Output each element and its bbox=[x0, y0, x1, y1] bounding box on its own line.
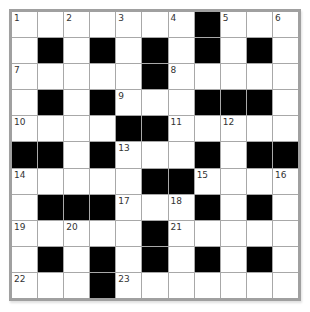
crossword-cell[interactable] bbox=[169, 90, 194, 115]
crossword-cell[interactable] bbox=[64, 90, 89, 115]
crossword-cell[interactable] bbox=[273, 221, 298, 246]
crossword-cell[interactable] bbox=[64, 116, 89, 141]
crossword-cell[interactable] bbox=[64, 247, 89, 272]
crossword-cell[interactable] bbox=[38, 64, 63, 89]
black-square bbox=[142, 38, 167, 63]
crossword-cell[interactable]: 21 bbox=[169, 221, 194, 246]
crossword-cell[interactable] bbox=[221, 64, 246, 89]
crossword-cell[interactable] bbox=[221, 247, 246, 272]
black-square bbox=[247, 38, 272, 63]
clue-number: 22 bbox=[14, 274, 25, 284]
clue-number: 10 bbox=[14, 117, 25, 127]
crossword-cell[interactable]: 11 bbox=[169, 116, 194, 141]
black-square bbox=[38, 247, 63, 272]
crossword-cell[interactable] bbox=[12, 38, 37, 63]
crossword-cell[interactable] bbox=[142, 273, 167, 298]
crossword-cell[interactable] bbox=[38, 169, 63, 194]
crossword-cell[interactable] bbox=[64, 64, 89, 89]
crossword-cell[interactable]: 12 bbox=[221, 116, 246, 141]
crossword-cell[interactable]: 22 bbox=[12, 273, 37, 298]
crossword-cell[interactable]: 10 bbox=[12, 116, 37, 141]
crossword-cell[interactable] bbox=[195, 116, 220, 141]
crossword-cell[interactable] bbox=[142, 90, 167, 115]
crossword-cell[interactable] bbox=[38, 221, 63, 246]
crossword-cell[interactable] bbox=[169, 142, 194, 167]
crossword-cell[interactable] bbox=[273, 247, 298, 272]
crossword-cell[interactable]: 14 bbox=[12, 169, 37, 194]
crossword-cell[interactable]: 13 bbox=[116, 142, 141, 167]
crossword-cell[interactable] bbox=[90, 12, 115, 37]
crossword-cell[interactable] bbox=[221, 273, 246, 298]
black-square bbox=[273, 142, 298, 167]
crossword-cell[interactable] bbox=[90, 116, 115, 141]
crossword-cell[interactable]: 15 bbox=[195, 169, 220, 194]
crossword-cell[interactable] bbox=[90, 221, 115, 246]
crossword-cell[interactable] bbox=[273, 116, 298, 141]
crossword-cell[interactable] bbox=[38, 273, 63, 298]
crossword-cell[interactable] bbox=[169, 247, 194, 272]
crossword-cell[interactable]: 1 bbox=[12, 12, 37, 37]
crossword-cell[interactable] bbox=[247, 64, 272, 89]
black-square bbox=[142, 64, 167, 89]
crossword-cell[interactable]: 6 bbox=[273, 12, 298, 37]
crossword-cell[interactable]: 5 bbox=[221, 12, 246, 37]
crossword-cell[interactable]: 4 bbox=[169, 12, 194, 37]
black-square bbox=[38, 142, 63, 167]
crossword-cell[interactable] bbox=[221, 221, 246, 246]
crossword-cell[interactable] bbox=[221, 195, 246, 220]
crossword-cell[interactable] bbox=[273, 273, 298, 298]
crossword-cell[interactable] bbox=[90, 64, 115, 89]
crossword-cell[interactable] bbox=[247, 221, 272, 246]
crossword-cell[interactable] bbox=[64, 142, 89, 167]
crossword-cell[interactable]: 19 bbox=[12, 221, 37, 246]
clue-number: 14 bbox=[14, 170, 25, 180]
crossword-cell[interactable] bbox=[195, 64, 220, 89]
crossword-cell[interactable] bbox=[12, 247, 37, 272]
crossword-cell[interactable] bbox=[247, 116, 272, 141]
crossword-cell[interactable] bbox=[12, 90, 37, 115]
crossword-cell[interactable] bbox=[64, 38, 89, 63]
crossword-cell[interactable] bbox=[38, 116, 63, 141]
crossword-cell[interactable] bbox=[195, 221, 220, 246]
crossword-cell[interactable] bbox=[116, 38, 141, 63]
black-square bbox=[195, 12, 220, 37]
crossword-cell[interactable] bbox=[247, 169, 272, 194]
crossword-cell[interactable] bbox=[247, 273, 272, 298]
crossword-cell[interactable] bbox=[169, 273, 194, 298]
crossword-cell[interactable] bbox=[12, 195, 37, 220]
crossword-cell[interactable] bbox=[221, 38, 246, 63]
crossword-cell[interactable] bbox=[64, 169, 89, 194]
black-square bbox=[195, 38, 220, 63]
crossword-cell[interactable]: 9 bbox=[116, 90, 141, 115]
crossword-cell[interactable] bbox=[247, 12, 272, 37]
crossword-cell[interactable] bbox=[90, 169, 115, 194]
clue-number: 8 bbox=[171, 65, 177, 75]
clue-number: 20 bbox=[66, 222, 77, 232]
crossword-cell[interactable] bbox=[221, 169, 246, 194]
crossword-cell[interactable] bbox=[142, 12, 167, 37]
crossword-cell[interactable] bbox=[38, 12, 63, 37]
crossword-cell[interactable]: 8 bbox=[169, 64, 194, 89]
crossword-cell[interactable] bbox=[64, 273, 89, 298]
crossword-cell[interactable]: 23 bbox=[116, 273, 141, 298]
crossword-cell[interactable]: 16 bbox=[273, 169, 298, 194]
crossword-cell[interactable] bbox=[116, 169, 141, 194]
crossword-cell[interactable] bbox=[116, 64, 141, 89]
crossword-cell[interactable]: 2 bbox=[64, 12, 89, 37]
crossword-cell[interactable] bbox=[273, 38, 298, 63]
crossword-cell[interactable]: 18 bbox=[169, 195, 194, 220]
crossword-cell[interactable] bbox=[142, 195, 167, 220]
crossword-cell[interactable]: 17 bbox=[116, 195, 141, 220]
crossword-cell[interactable]: 7 bbox=[12, 64, 37, 89]
crossword-cell[interactable] bbox=[116, 221, 141, 246]
crossword-cell[interactable] bbox=[273, 64, 298, 89]
crossword-cell[interactable] bbox=[273, 195, 298, 220]
crossword-cell[interactable]: 20 bbox=[64, 221, 89, 246]
crossword-cell[interactable] bbox=[221, 142, 246, 167]
crossword-cell[interactable] bbox=[273, 90, 298, 115]
crossword-cell[interactable]: 3 bbox=[116, 12, 141, 37]
crossword-cell[interactable] bbox=[116, 247, 141, 272]
crossword-cell[interactable] bbox=[195, 273, 220, 298]
crossword-cell[interactable] bbox=[142, 142, 167, 167]
crossword-cell[interactable] bbox=[169, 38, 194, 63]
